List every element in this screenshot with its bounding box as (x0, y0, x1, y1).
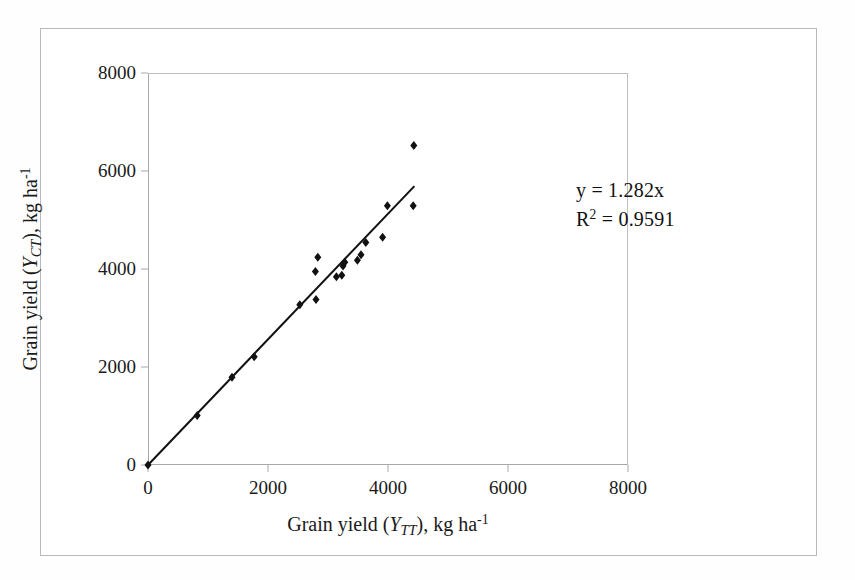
x-axis-title-middle: ), kg ha (417, 513, 478, 535)
y-axis-title-prefix: Grain yield ( (19, 268, 41, 370)
y-axis-variable: Y (19, 257, 41, 268)
x-tick-label: 2000 (218, 478, 318, 497)
y-axis-title: Grain yield (YCT), kg ha-1 (18, 73, 46, 465)
x-axis-title: Grain yield (YTT), kg ha-1 (148, 512, 628, 539)
x-tick-label: 8000 (578, 478, 678, 497)
r-squared-exponent: 2 (590, 207, 597, 222)
r-squared-value: = 0.9591 (597, 208, 675, 230)
y-axis-superscript: -1 (18, 167, 33, 179)
x-axis-title-prefix: Grain yield ( (287, 513, 389, 535)
equation-label: y = 1.282x (576, 176, 675, 205)
y-axis-subscript: CT (28, 240, 44, 258)
r-squared-label: R2 = 0.9591 (576, 205, 675, 234)
regression-annotation: y = 1.282x R2 = 0.9591 (576, 176, 675, 234)
y-tick-label: 8000 (36, 63, 136, 82)
x-tick-label: 0 (98, 478, 198, 497)
y-axis-title-middle: ), kg ha (19, 179, 41, 240)
y-tick-label: 0 (36, 455, 136, 474)
x-tick-label: 6000 (458, 478, 558, 497)
y-tick-label: 4000 (36, 259, 136, 278)
x-tick-label: 4000 (338, 478, 438, 497)
plot-area (148, 73, 628, 465)
figure-root: 02000400060008000 02000400060008000 Grai… (0, 0, 855, 580)
x-axis-subscript: TT (401, 522, 417, 538)
y-tick-label: 2000 (36, 357, 136, 376)
y-tick-label: 6000 (36, 161, 136, 180)
x-axis-variable: Y (389, 513, 400, 535)
r-squared-prefix: R (576, 208, 590, 230)
x-axis-superscript: -1 (477, 512, 489, 527)
